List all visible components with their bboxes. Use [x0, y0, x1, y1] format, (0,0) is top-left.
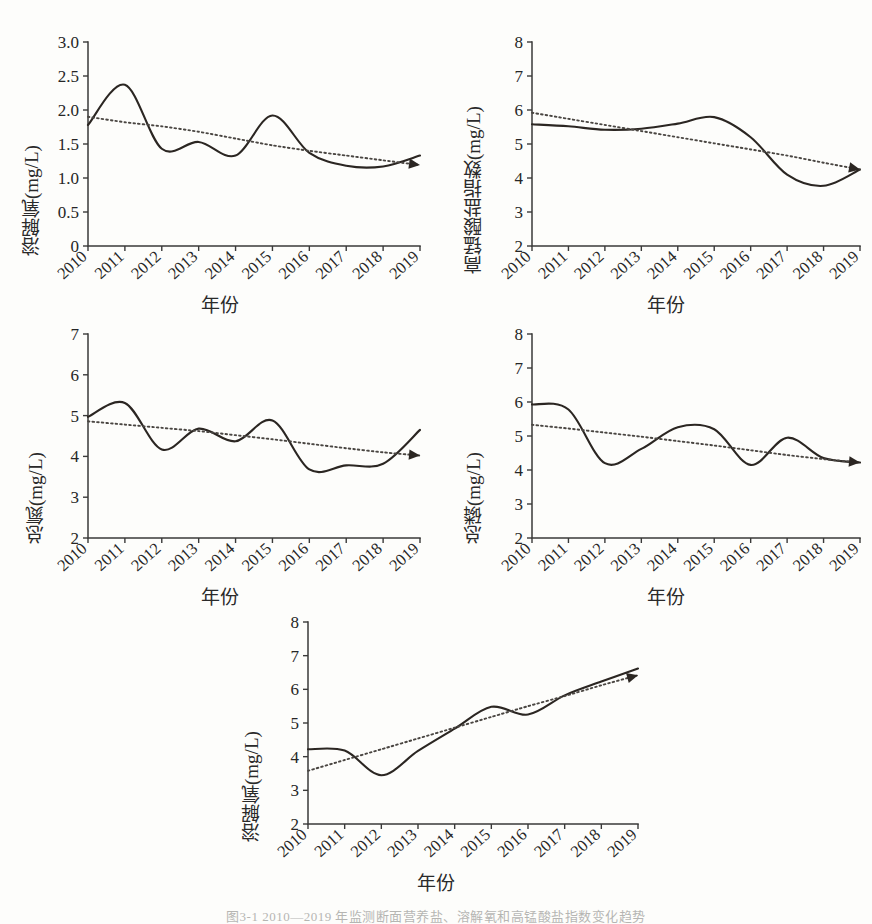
- x-tick-label: 2012: [570, 247, 607, 283]
- x-tick-label: 2010: [53, 247, 90, 283]
- trend-arrow-head: [409, 449, 421, 460]
- x-tick-label: 2016: [716, 539, 753, 575]
- y-tick-label: 1.0: [58, 169, 79, 188]
- plot-area-e: 2345678201020112012201320142015201620172…: [218, 606, 654, 864]
- y-tick-label: 8: [291, 613, 300, 632]
- plot-area-c: 2345672010201120122013201420152016201720…: [0, 316, 436, 578]
- y-tick-label: 2.5: [58, 67, 79, 86]
- y-tick-label: 7: [515, 67, 524, 86]
- x-tick-label: 2019: [385, 247, 422, 283]
- y-tick-label: 7: [291, 647, 300, 666]
- series-curve-solid: [88, 85, 420, 168]
- y-axis-title-a: 溶解氧(mg/L): [18, 86, 45, 256]
- x-tick-label: 2017: [312, 247, 349, 283]
- x-tick-label: 2015: [680, 539, 717, 575]
- x-tick-label: 2014: [643, 539, 680, 575]
- x-tick-label: 2013: [164, 247, 201, 283]
- y-tick-label: 5: [291, 714, 300, 733]
- x-tick-label: 2018: [789, 539, 826, 575]
- series-trend-dotted: [88, 421, 420, 455]
- series-trend-dotted: [308, 675, 638, 771]
- chart-panel-dissolved-oxygen-a: 溶解氧(mg/L) 年份 00.51.01.52.02.53.020102011…: [0, 24, 436, 314]
- y-tick-label: 4: [515, 461, 524, 480]
- x-tick-label: 2015: [680, 247, 717, 283]
- y-tick-label: 3: [291, 781, 300, 800]
- y-tick-label: 3: [515, 495, 524, 514]
- x-tick-label: 2016: [275, 247, 312, 283]
- x-tick-label: 2012: [347, 825, 384, 861]
- x-tick-label: 2014: [201, 247, 238, 283]
- y-tick-label: 8: [515, 33, 524, 52]
- x-axis-title-d: 年份: [596, 582, 736, 609]
- y-tick-label: 6: [291, 680, 300, 699]
- y-tick-label: 1.5: [58, 135, 79, 154]
- x-tick-label: 2012: [127, 247, 164, 283]
- chart-panel-permanganate-index-b: 高锰酸盐指数(mg/L) 年份 234567820102011201220132…: [436, 24, 872, 314]
- x-tick-label: 2017: [530, 825, 567, 861]
- x-tick-label: 2013: [607, 247, 644, 283]
- y-tick-label: 4: [71, 447, 80, 466]
- y-tick-label: 6: [515, 101, 524, 120]
- y-axis-title-b: 高锰酸盐指数(mg/L): [460, 64, 487, 274]
- x-tick-label: 2012: [570, 539, 607, 575]
- x-tick-label: 2011: [534, 247, 571, 283]
- y-tick-label: 5: [71, 407, 80, 426]
- figure-caption: 图3-1 2010—2019 年监测断面营养盐、溶解氧和高锰酸盐指数变化趋势: [0, 906, 872, 924]
- x-tick-label: 2016: [716, 247, 753, 283]
- series-trend-dotted: [532, 425, 860, 463]
- x-tick-label: 2011: [91, 247, 128, 283]
- y-axis-title-e: 溶解氧(mg/L): [238, 672, 265, 842]
- x-tick-label: 2018: [349, 247, 386, 283]
- y-tick-label: 8: [515, 325, 524, 344]
- x-tick-label: 2018: [567, 825, 604, 861]
- x-tick-label: 2014: [643, 247, 680, 283]
- x-axis-title-a: 年份: [150, 290, 290, 317]
- y-tick-label: 7: [515, 359, 524, 378]
- y-tick-label: 3.0: [58, 33, 79, 52]
- x-tick-label: 2013: [383, 825, 420, 861]
- x-axis-title-c: 年份: [150, 582, 290, 609]
- figure-page: 溶解氧(mg/L) 年份 00.51.01.52.02.53.020102011…: [0, 0, 872, 924]
- y-tick-label: 2.0: [58, 101, 79, 120]
- x-tick-label: 2011: [534, 539, 571, 575]
- x-tick-label: 2018: [349, 539, 386, 575]
- x-tick-label: 2019: [603, 825, 640, 861]
- chart-panel-dissolved-oxygen-e: 溶解氧(mg/L) 年份 234567820102011201220132014…: [218, 606, 654, 906]
- x-tick-label: 2019: [385, 539, 422, 575]
- x-tick-label: 2014: [201, 539, 238, 575]
- x-tick-label: 2017: [753, 539, 790, 575]
- y-tick-label: 7: [71, 325, 80, 344]
- x-tick-label: 2010: [53, 539, 90, 575]
- y-axis-title-c: 总氮(mg/L): [22, 394, 49, 544]
- x-tick-label: 2015: [457, 825, 494, 861]
- x-tick-label: 2016: [493, 825, 530, 861]
- x-tick-label: 2015: [238, 247, 275, 283]
- x-tick-label: 2013: [607, 539, 644, 575]
- plot-area-d: 2345678201020112012201320142015201620172…: [436, 316, 872, 578]
- x-tick-label: 2014: [420, 825, 457, 861]
- y-tick-label: 3: [71, 488, 80, 507]
- y-tick-label: 3: [515, 203, 524, 222]
- x-tick-label: 2011: [311, 825, 348, 861]
- y-tick-label: 5: [515, 135, 524, 154]
- y-tick-label: 0.5: [58, 203, 79, 222]
- series-trend-dotted: [88, 117, 420, 165]
- x-tick-label: 2012: [127, 539, 164, 575]
- x-tick-label: 2010: [273, 825, 310, 861]
- plot-area-b: 2345678201020112012201320142015201620172…: [436, 24, 872, 286]
- series-curve-solid: [532, 117, 860, 186]
- x-tick-label: 2010: [497, 539, 534, 575]
- chart-panel-total-nitrogen-c: 总氮(mg/L) 年份 2345672010201120122013201420…: [0, 316, 436, 606]
- x-tick-label: 2013: [164, 539, 201, 575]
- x-tick-label: 2017: [753, 247, 790, 283]
- chart-panel-total-phosphorus-d: 总磷(mg/L) 年份 2345678201020112012201320142…: [436, 316, 872, 606]
- y-tick-label: 6: [515, 393, 524, 412]
- y-tick-label: 6: [71, 366, 80, 385]
- x-tick-label: 2016: [275, 539, 312, 575]
- x-axis-title-e: 年份: [366, 868, 506, 895]
- y-axis-title-d: 总磷(mg/L): [460, 394, 487, 544]
- x-tick-label: 2017: [312, 539, 349, 575]
- y-tick-label: 4: [515, 169, 524, 188]
- series-curve-solid: [532, 404, 860, 465]
- x-tick-label: 2010: [497, 247, 534, 283]
